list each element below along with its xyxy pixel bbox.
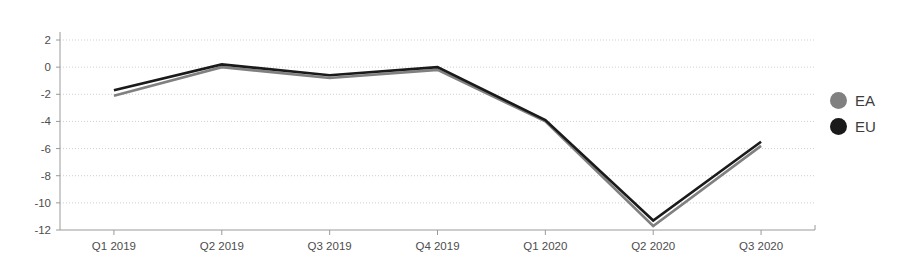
y-tick-label: -10 bbox=[34, 197, 51, 209]
x-tick-label: Q3 2019 bbox=[308, 240, 352, 252]
y-tick-label: 2 bbox=[45, 34, 51, 46]
x-tick-label: Q1 2019 bbox=[92, 240, 136, 252]
line-chart: 20-2-4-6-8-10-12 Q1 2019Q2 2019Q3 2019Q4… bbox=[0, 0, 915, 274]
y-tick-label: -4 bbox=[41, 115, 52, 127]
y-tick-label: -8 bbox=[41, 170, 51, 182]
x-tick-label: Q2 2019 bbox=[200, 240, 244, 252]
legend-label: EA bbox=[855, 93, 875, 108]
x-tick-label: Q2 2020 bbox=[631, 240, 675, 252]
y-axis bbox=[56, 32, 60, 230]
chart-legend: EA EU bbox=[830, 92, 876, 135]
series-lines bbox=[114, 64, 761, 226]
y-tick-label: 0 bbox=[45, 61, 51, 73]
x-tick-label: Q3 2020 bbox=[739, 240, 783, 252]
legend-item-eu[interactable]: EU bbox=[830, 118, 876, 135]
x-tick-labels: Q1 2019Q2 2019Q3 2019Q4 2019Q1 2020Q2 20… bbox=[92, 240, 783, 252]
x-tick-label: Q1 2020 bbox=[523, 240, 567, 252]
y-tick-label: -2 bbox=[41, 88, 51, 100]
circle-marker-icon bbox=[830, 92, 847, 109]
chart-canvas: 20-2-4-6-8-10-12 Q1 2019Q2 2019Q3 2019Q4… bbox=[0, 0, 915, 274]
y-tick-label: -12 bbox=[34, 224, 51, 236]
y-tick-label: -6 bbox=[41, 143, 51, 155]
x-axis bbox=[60, 225, 815, 235]
y-tick-labels: 20-2-4-6-8-10-12 bbox=[34, 34, 51, 236]
series-line-ea bbox=[114, 67, 761, 226]
legend-label: EU bbox=[855, 119, 876, 134]
grid-lines bbox=[60, 40, 815, 203]
series-line-eu bbox=[114, 64, 761, 220]
legend-item-ea[interactable]: EA bbox=[830, 92, 876, 109]
x-tick-label: Q4 2019 bbox=[415, 240, 459, 252]
plot-area: 20-2-4-6-8-10-12 Q1 2019Q2 2019Q3 2019Q4… bbox=[0, 0, 915, 274]
circle-marker-icon bbox=[830, 118, 847, 135]
